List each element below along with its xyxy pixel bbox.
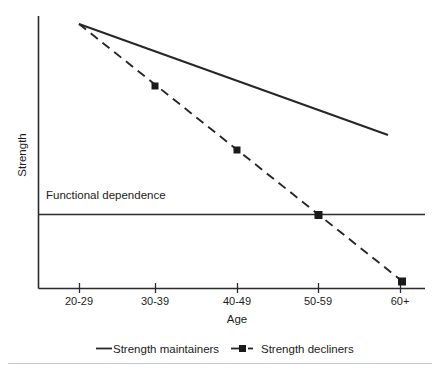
legend-label-strength-maintainers: Strength maintainers: [113, 343, 219, 355]
x-tick-label-0: 20-29: [65, 295, 93, 307]
chart-background: [0, 0, 440, 374]
x-axis-title: Age: [227, 313, 247, 325]
strength-vs-age-line-chart: 20-29 30-39 40-49 50-59 60+ Age Strength…: [0, 0, 440, 374]
data-point-marker-decliners-30-39: [152, 83, 159, 90]
data-point-marker-decliners-40-49: [234, 147, 241, 154]
chart-container: 20-29 30-39 40-49 50-59 60+ Age Strength…: [0, 0, 440, 374]
x-tick-label-3: 50-59: [304, 295, 332, 307]
functional-dependence-label: Functional dependence: [46, 189, 166, 201]
data-point-marker-decliners-50-59: [315, 211, 323, 219]
legend-label-strength-decliners: Strength decliners: [261, 343, 354, 355]
data-point-marker-decliners-60-plus: [398, 278, 406, 286]
x-tick-label-4: 60+: [391, 295, 410, 307]
x-tick-label-2: 40-49: [223, 295, 251, 307]
x-tick-label-1: 30-39: [141, 295, 169, 307]
y-axis-title: Strength: [16, 133, 28, 176]
legend-swatch-square-marker: [239, 345, 246, 352]
